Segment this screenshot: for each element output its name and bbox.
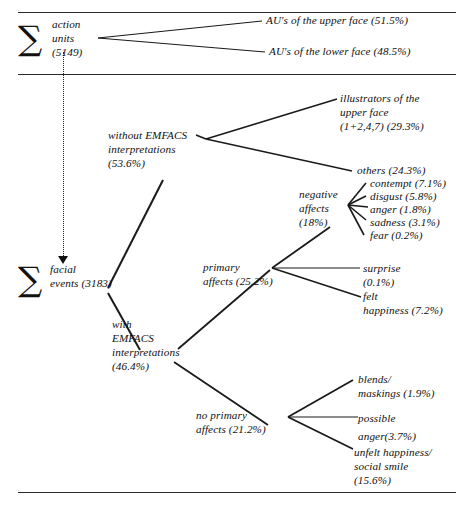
figure-canvas: ∑ action units (5149) AU's of the upper … <box>0 0 470 507</box>
edge-contempt <box>348 183 366 205</box>
edge-felt-happiness <box>272 268 361 297</box>
edge-au-upper <box>98 21 262 38</box>
sigma-icon-facial-events: ∑ <box>18 262 42 296</box>
node-possible-anger-line2: anger(3.7%) <box>358 430 416 443</box>
edge-disgust <box>348 196 366 205</box>
node-action-units-line2: units <box>52 32 74 45</box>
node-felt-happiness-line2: happiness (7.2%) <box>363 304 443 317</box>
node-illustrators-line3: (1+2,4,7) (29.3%) <box>340 120 424 133</box>
node-surprise-line1: surprise <box>363 262 400 275</box>
node-negative-affects-line2: affects <box>299 202 329 215</box>
node-anger: anger (1.8%) <box>370 203 431 216</box>
horizontal-rule-bottom <box>18 492 456 493</box>
node-illustrators-line2: upper face <box>340 106 389 119</box>
node-without-emfacs-line2: interpretations <box>108 143 176 156</box>
sigma-icon-action-units: ∑ <box>18 21 42 55</box>
node-action-units-line3: (5149) <box>52 46 82 59</box>
node-blends-line2: maskings (1.9%) <box>358 387 435 400</box>
dotted-connector <box>63 52 64 260</box>
node-sadness: sadness (3.1%) <box>370 216 440 229</box>
node-au-lower-face: AU's of the lower face (48.5%) <box>269 45 410 58</box>
edge-illustrators <box>206 99 337 139</box>
node-negative-affects-line1: negative <box>299 188 338 201</box>
node-unfelt-happiness-line2: social smile <box>354 460 408 473</box>
edge-unfelt-happiness <box>288 417 353 449</box>
node-unfelt-happiness-line3: (15.6%) <box>354 474 391 487</box>
edge-anger <box>348 205 368 207</box>
node-unfelt-happiness-line1: unfelt happiness/ <box>354 446 432 459</box>
node-felt-happiness-line1: felt <box>363 290 378 303</box>
node-illustrators-line1: illustrators of the <box>340 92 420 105</box>
node-with-emfacs-line3: interpretations <box>112 346 180 359</box>
node-disgust: disgust (5.8%) <box>370 190 437 203</box>
node-no-primary-affects-line1: no primary <box>196 409 247 422</box>
edge-without-vertex <box>196 135 206 139</box>
node-primary-affects-line1: primary <box>203 261 240 274</box>
edge-primary-negative <box>272 227 330 268</box>
node-others: others (24.3%) <box>357 164 426 177</box>
node-au-upper-face: AU's of the upper face (51.5%) <box>266 14 408 27</box>
node-primary-affects-line2: affects (25.2%) <box>203 275 273 288</box>
edge-others <box>206 139 352 171</box>
node-facial-events-line2: events (3183) <box>50 277 112 290</box>
node-without-emfacs-line3: (53.6%) <box>108 157 145 170</box>
horizontal-rule-middle <box>18 74 456 75</box>
edge-facial-without <box>108 180 163 288</box>
node-with-emfacs-line1: with <box>112 318 132 331</box>
node-action-units-line1: action <box>52 18 81 31</box>
node-no-primary-affects-line2: affects (21.2%) <box>196 423 266 436</box>
node-possible-anger-line1: possible <box>358 412 395 425</box>
node-contempt: contempt (7.1%) <box>370 177 446 190</box>
node-blends-line1: blends/ <box>358 373 391 386</box>
node-negative-affects-line3: (18%) <box>299 216 327 229</box>
node-facial-events-line1: facial <box>50 263 76 276</box>
node-surprise-line2: (0.1%) <box>363 276 394 289</box>
edge-fear <box>348 205 364 235</box>
node-fear: fear (0.2%) <box>370 229 423 242</box>
node-without-emfacs-line1: without EMFACS <box>108 129 187 142</box>
edge-blends <box>288 380 353 417</box>
horizontal-rule-top <box>18 12 456 13</box>
edge-sadness <box>348 205 366 220</box>
node-with-emfacs-line2: EMFACS <box>112 332 154 345</box>
node-with-emfacs-line4: (46.4%) <box>112 360 149 373</box>
edge-au-lower <box>98 38 265 52</box>
